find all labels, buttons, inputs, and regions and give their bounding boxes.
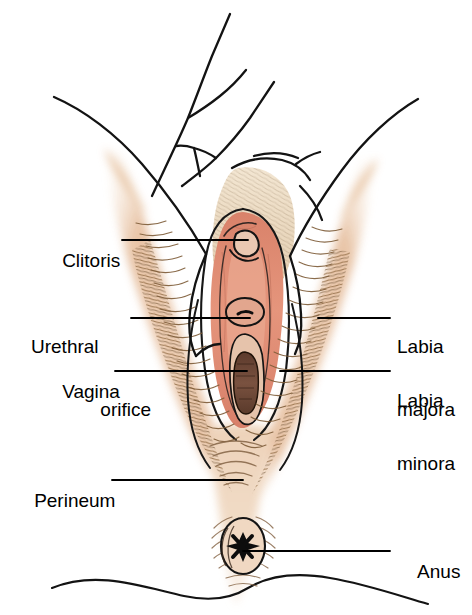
label-labia-minora-line2: minora xyxy=(397,453,455,474)
label-clitoris: Clitoris xyxy=(41,229,120,292)
label-anus-line1: Anus xyxy=(417,561,460,582)
vaginal-opening xyxy=(230,334,264,424)
label-perineum: Perineum xyxy=(13,469,115,532)
label-vagina-line1: Vagina xyxy=(62,381,120,402)
label-clitoris-line1: Clitoris xyxy=(62,250,120,271)
label-labia-minora: Labia minora xyxy=(397,348,455,516)
anatomical-diagram: Clitoris Urethral orifice Vagina Perineu… xyxy=(0,0,472,615)
label-perineum-line1: Perineum xyxy=(34,490,115,511)
label-urethral-orifice-line1: Urethral xyxy=(31,336,99,357)
label-vagina: Vagina xyxy=(41,360,120,423)
label-labia-minora-line1: Labia xyxy=(397,390,444,411)
label-anus: Anus xyxy=(397,540,460,603)
urethral-orifice xyxy=(226,298,264,326)
